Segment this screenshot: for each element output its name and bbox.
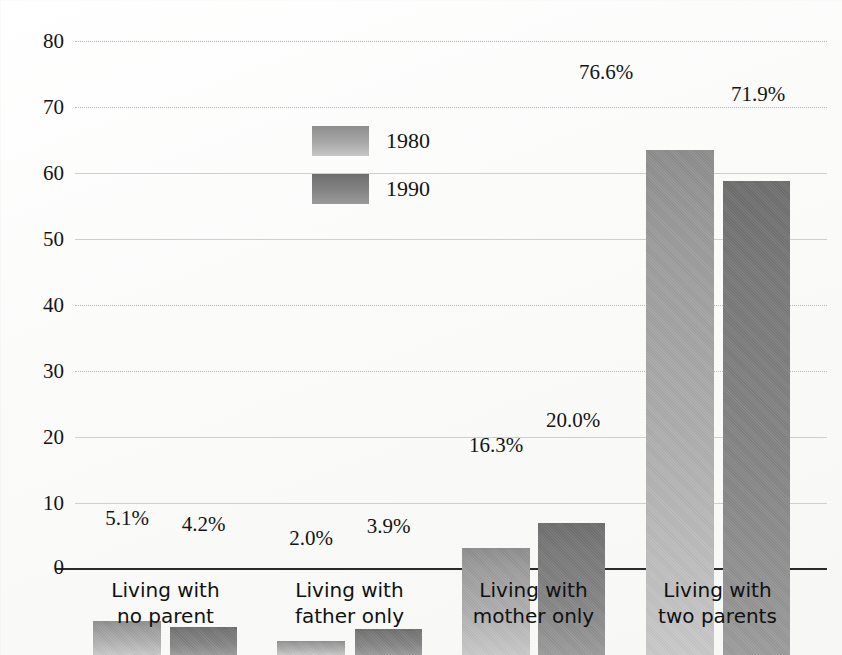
bar-1980-father-only[interactable]	[277, 641, 345, 655]
group-label-no-parent: Living with no parent	[83, 578, 248, 629]
bar-value-1980-no-parent: 5.1%	[93, 508, 161, 529]
plot-area	[75, 41, 827, 568]
gridline-20	[75, 437, 827, 439]
legend: 1980 1990	[312, 126, 472, 222]
legend-swatch-1990	[312, 174, 369, 204]
bar-1990-father-only[interactable]	[355, 629, 422, 655]
bar-value-1990-no-parent: 4.2%	[170, 514, 237, 535]
bar-texture	[170, 627, 237, 655]
y-tick-70: 70	[18, 97, 64, 118]
legend-item-1980[interactable]: 1980	[312, 126, 472, 174]
y-tick-60: 60	[18, 163, 64, 184]
bar-value-1980-mother-only: 16.3%	[455, 435, 537, 456]
group-label-mother-only: Living with mother only	[451, 578, 616, 629]
legend-swatch-1980	[312, 126, 369, 156]
bar-value-1990-father-only: 3.9%	[355, 516, 422, 537]
bar-texture	[355, 629, 422, 655]
bar-value-1990-two-parents: 71.9%	[717, 84, 799, 105]
y-tick-0: 0	[18, 557, 64, 578]
bar-value-1980-father-only: 2.0%	[277, 528, 345, 549]
gridline-70	[75, 107, 827, 109]
bar-texture	[277, 641, 345, 655]
y-tick-20: 20	[18, 427, 64, 448]
y-tick-50: 50	[18, 229, 64, 250]
y-tick-10: 10	[18, 493, 64, 514]
legend-item-1990[interactable]: 1990	[312, 174, 472, 222]
bar-1990-no-parent[interactable]	[170, 627, 237, 655]
bar-value-1990-mother-only: 20.0%	[532, 410, 614, 431]
bar-chart: 80 70 60 50 40 30 20 10 0 5.1% 4.2% 2.0%…	[0, 0, 842, 655]
y-axis: 80 70 60 50 40 30 20 10 0	[0, 0, 64, 655]
gridline-30	[75, 371, 827, 373]
gridline-50	[75, 239, 827, 241]
bar-value-1980-two-parents: 76.6%	[565, 62, 647, 83]
y-tick-80: 80	[18, 31, 64, 52]
y-tick-40: 40	[18, 295, 64, 316]
group-label-two-parents: Living with two parents	[635, 578, 800, 629]
gridline-40	[75, 305, 827, 307]
group-label-father-only: Living with father only	[267, 578, 432, 629]
gridline-10	[75, 503, 827, 505]
gridline-80	[75, 41, 827, 43]
y-tick-30: 30	[18, 361, 64, 382]
legend-label-1990: 1990	[386, 176, 430, 202]
legend-label-1980: 1980	[386, 128, 430, 154]
